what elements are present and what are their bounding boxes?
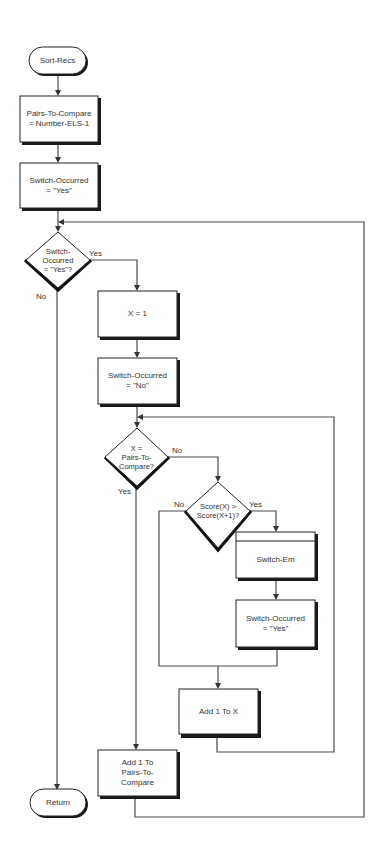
- node-label-reset-switch: Switch-Occurred = "No": [98, 358, 177, 404]
- node-label-end: Return: [30, 789, 86, 816]
- node-label-inc-x: Add 1 To X: [179, 689, 258, 734]
- edge-label-compare-yes: Yes: [249, 500, 262, 510]
- node-label-check-switch: Switch- Occurred = "Yes"?: [26, 232, 90, 288]
- node-label-set-x: X = 1: [98, 291, 177, 337]
- node-label-start: Sort-Recs: [29, 47, 86, 74]
- node-label-init-switch: Switch-Occurred = "Yes": [20, 163, 98, 208]
- arrow-left-icon: [137, 414, 143, 420]
- edge-label-check-x-no: No: [172, 446, 182, 456]
- edge-check-switch-yes: [90, 260, 137, 287]
- node-label-check-x: X = Pairs-To- Compare?: [105, 428, 168, 486]
- edge-label-check-switch-no: No: [36, 292, 46, 302]
- arrow-down-icon: [273, 526, 279, 532]
- arrow-left-icon: [58, 219, 64, 225]
- edge-set-switch-to-merge: [218, 649, 277, 666]
- edge-check-x-no: [168, 457, 218, 478]
- edge-label-compare-no: No: [174, 500, 184, 510]
- edge-label-check-x-yes: Yes: [118, 487, 131, 497]
- node-label-compare-scores: Score(X) > Score(X+1)?: [186, 482, 250, 540]
- node-label-set-switch-yes: Switch-Occurred = "Yes": [236, 600, 315, 647]
- node-label-init-pairs: Pairs-To-Compare = Number-ELS-1: [20, 96, 98, 142]
- edge-label-check-switch-yes: Yes: [89, 249, 102, 259]
- node-label-inc-pairs: Add 1 To Pairs-To- Compare: [98, 750, 177, 796]
- edge-compare-yes: [250, 511, 276, 528]
- node-label-switch-em: Switch-Em: [236, 541, 315, 578]
